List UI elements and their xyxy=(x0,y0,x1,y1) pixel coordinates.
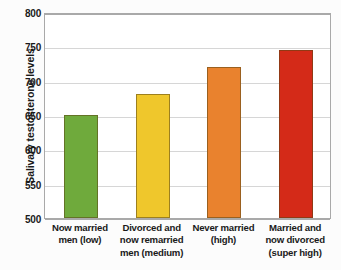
bar-chart: Salivary testosterone levels 80075070065… xyxy=(0,0,341,270)
x-label-line: now divorced xyxy=(252,234,338,246)
y-axis-tick-labels: 800750700650600550500 xyxy=(14,13,41,219)
x-label-3: Married andnow divorced(super high) xyxy=(252,222,338,259)
bar-3 xyxy=(279,50,313,218)
x-axis-category-labels: Now marriedmen (low)Divorced andnow rema… xyxy=(44,222,331,268)
x-label-line: (super high) xyxy=(252,247,338,259)
plot-area xyxy=(44,13,331,219)
y-tick-label-650: 650 xyxy=(14,111,41,122)
gridline-500 xyxy=(45,219,330,220)
x-label-line: Married and xyxy=(252,222,338,234)
y-tick-label-800: 800 xyxy=(14,8,41,19)
y-tick-label-550: 550 xyxy=(14,179,41,190)
y-tick-label-600: 600 xyxy=(14,145,41,156)
y-tick-label-700: 700 xyxy=(14,76,41,87)
bars-layer xyxy=(45,14,330,218)
bar-2 xyxy=(207,67,241,218)
bar-0 xyxy=(64,115,98,218)
x-label-line: men (medium) xyxy=(109,247,195,259)
y-tick-label-750: 750 xyxy=(14,42,41,53)
bar-1 xyxy=(136,94,170,218)
